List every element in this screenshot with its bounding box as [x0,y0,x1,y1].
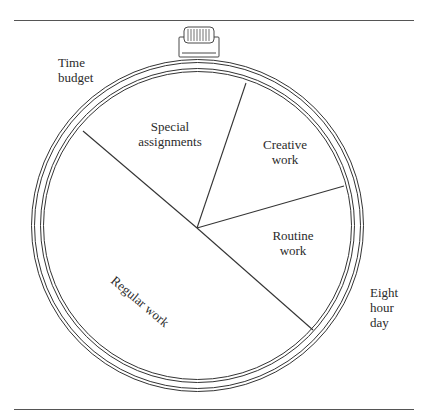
eight-hour-day-label: Eight hour day [370,285,398,330]
divider-creative-routine [197,186,344,228]
eight-hour-line-3: day [370,315,398,330]
creative-line-1: Creative [250,137,320,152]
divider-special-creative [197,83,246,228]
time-budget-line-1: Time [58,55,93,70]
time-budget-line-2: budget [58,70,93,85]
routine-line-1: Routine [258,228,328,243]
eight-hour-line-1: Eight [370,285,398,300]
eight-hour-line-2: hour [370,300,398,315]
stopwatch-crown-icon [179,27,219,57]
creative-work-label: Creative work [250,137,320,167]
special-line-1: Special [120,119,220,134]
time-budget-label: Time budget [58,55,93,85]
routine-line-2: work [258,243,328,258]
creative-line-2: work [250,152,320,167]
special-assignments-label: Special assignments [120,119,220,149]
routine-work-label: Routine work [258,228,328,258]
special-line-2: assignments [120,134,220,149]
